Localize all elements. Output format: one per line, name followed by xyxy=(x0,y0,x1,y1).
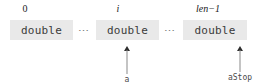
arrow-shaft xyxy=(127,50,128,74)
array-cell-type-label: double xyxy=(195,25,236,36)
pointer-astop-label: aStop xyxy=(228,74,252,82)
array-cell-type-label: double xyxy=(21,25,62,36)
ellipsis-left: ⋯ xyxy=(73,26,95,37)
index-label-last: len−1 xyxy=(189,4,227,14)
index-label-first: 0 xyxy=(10,4,40,14)
index-label-i: i xyxy=(103,4,133,14)
pointer-a-label: a xyxy=(125,76,130,84)
pointer-astop: aStop xyxy=(222,46,258,84)
array-cell-first: double xyxy=(10,20,73,40)
array-diagram: 0 i len−1 double ⋯ double ⋯ double a aSt… xyxy=(0,0,270,84)
array-cell-last: double xyxy=(183,20,247,40)
pointer-a: a xyxy=(113,46,141,84)
ellipsis-right: ⋯ xyxy=(159,26,181,37)
array-cell-i: double xyxy=(96,20,159,40)
arrow-shaft xyxy=(240,50,241,72)
array-cell-type-label: double xyxy=(107,25,148,36)
